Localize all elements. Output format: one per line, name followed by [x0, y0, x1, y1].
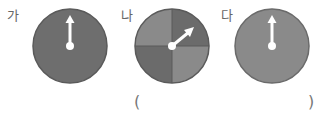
- spinner-da: [233, 7, 311, 85]
- spinner-label-ga: 가: [7, 5, 19, 24]
- answer-close-bracket: ): [308, 92, 314, 111]
- spinner-ga: [31, 7, 109, 85]
- spinner-label-na: 나: [121, 5, 133, 24]
- spinner-na: [133, 7, 211, 85]
- answer-open-bracket: (: [134, 92, 140, 111]
- spinner-label-da: 다: [221, 5, 233, 24]
